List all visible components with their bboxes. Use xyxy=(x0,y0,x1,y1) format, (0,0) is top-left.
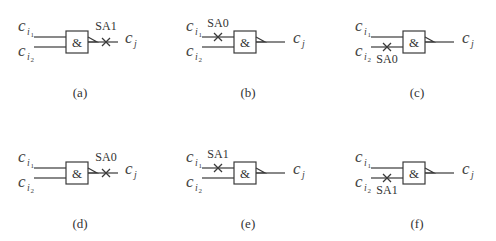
output-label-base: c xyxy=(462,159,470,178)
output-label-sub: j xyxy=(132,169,137,180)
fault-label: SA1 xyxy=(376,183,397,197)
output-label-base: c xyxy=(293,28,301,47)
fault-label: SA1 xyxy=(207,147,228,161)
input-label-2: ci2 xyxy=(355,41,372,64)
input-label-index: 2 xyxy=(199,56,203,64)
input-label-2: ci2 xyxy=(186,41,203,64)
panel-d: &ci1ci2cjSA0(d) xyxy=(18,147,137,231)
input-label-base: c xyxy=(18,41,26,60)
input-label-index: 1 xyxy=(199,31,203,39)
output-marker xyxy=(88,37,97,42)
input-label-index: 2 xyxy=(31,56,35,64)
input-label-index: 2 xyxy=(199,187,203,195)
output-marker xyxy=(425,37,434,42)
panel-caption: (c) xyxy=(410,85,424,100)
input-label-index: 1 xyxy=(368,162,372,170)
output-label-base: c xyxy=(293,159,301,178)
output-marker xyxy=(425,168,434,173)
panel-e: &ci1ci2cjSA1(e) xyxy=(186,147,305,231)
panel-caption: (e) xyxy=(241,216,255,231)
and-gate-symbol: & xyxy=(409,35,419,50)
output-label: cj xyxy=(125,159,137,180)
panel-b: &ci1ci2cjSA0(b) xyxy=(186,16,305,100)
output-marker xyxy=(256,37,265,42)
input-label-base: c xyxy=(186,41,194,60)
fault-diagram: &ci1ci2cjSA1(a)&ci1ci2cjSA0(b)&ci1ci2cjS… xyxy=(0,0,496,241)
input-label-2: ci2 xyxy=(186,172,203,195)
output-label-sub: j xyxy=(132,38,137,49)
input-label-base: c xyxy=(186,147,194,166)
panel-caption: (f) xyxy=(411,216,424,231)
panel-caption: (b) xyxy=(240,85,255,100)
and-gate-symbol: & xyxy=(409,166,419,181)
input-label-base: c xyxy=(355,16,363,35)
input-label-base: c xyxy=(355,147,363,166)
output-label: cj xyxy=(125,28,137,49)
input-label-index: 1 xyxy=(31,162,35,170)
and-gate-symbol: & xyxy=(240,35,250,50)
input-label-index: 1 xyxy=(368,31,372,39)
and-gate-symbol: & xyxy=(72,35,82,50)
input-label-1: ci1 xyxy=(18,16,35,39)
input-label-base: c xyxy=(18,172,26,191)
input-label-base: c xyxy=(355,172,363,191)
input-label-index: 2 xyxy=(368,187,372,195)
output-marker xyxy=(256,168,265,173)
panel-caption: (d) xyxy=(72,216,87,231)
panel-f: &ci1ci2cjSA1(f) xyxy=(355,147,474,231)
input-label-index: 1 xyxy=(31,31,35,39)
input-label-1: ci1 xyxy=(18,147,35,170)
fault-label: SA0 xyxy=(95,150,116,164)
output-label: cj xyxy=(462,28,474,49)
input-label-base: c xyxy=(18,147,26,166)
and-gate-symbol: & xyxy=(240,166,250,181)
input-label-1: ci1 xyxy=(355,147,372,170)
fault-label: SA0 xyxy=(376,52,397,66)
output-label-base: c xyxy=(125,159,133,178)
input-label-base: c xyxy=(186,16,194,35)
input-label-2: ci2 xyxy=(355,172,372,195)
output-label-sub: j xyxy=(469,38,474,49)
input-label-index: 2 xyxy=(31,187,35,195)
input-label-base: c xyxy=(18,16,26,35)
output-label-base: c xyxy=(462,28,470,47)
input-label-index: 1 xyxy=(199,162,203,170)
input-label-1: ci1 xyxy=(186,147,203,170)
output-label-sub: j xyxy=(300,38,305,49)
panel-a: &ci1ci2cjSA1(a) xyxy=(18,16,137,100)
input-label-1: ci1 xyxy=(186,16,203,39)
panel-caption: (a) xyxy=(73,85,87,100)
output-label: cj xyxy=(462,159,474,180)
input-label-base: c xyxy=(355,41,363,60)
output-label-sub: j xyxy=(469,169,474,180)
output-label: cj xyxy=(293,159,305,180)
output-marker xyxy=(88,168,97,173)
input-label-1: ci1 xyxy=(355,16,372,39)
panel-c: &ci1ci2cjSA0(c) xyxy=(355,16,474,100)
input-label-index: 2 xyxy=(368,56,372,64)
output-label-base: c xyxy=(125,28,133,47)
fault-label: SA0 xyxy=(207,16,228,30)
input-label-2: ci2 xyxy=(18,172,35,195)
output-label: cj xyxy=(293,28,305,49)
output-label-sub: j xyxy=(300,169,305,180)
input-label-base: c xyxy=(186,172,194,191)
input-label-2: ci2 xyxy=(18,41,35,64)
and-gate-symbol: & xyxy=(72,166,82,181)
fault-label: SA1 xyxy=(95,19,116,33)
